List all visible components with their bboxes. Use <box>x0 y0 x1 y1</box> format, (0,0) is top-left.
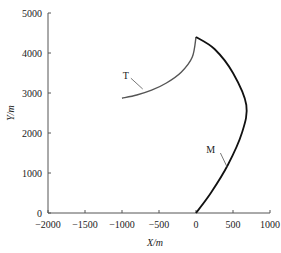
y-tick-label: 3000 <box>22 88 42 99</box>
x-tick-label: 500 <box>226 219 241 230</box>
y-tick-label: 0 <box>37 208 42 219</box>
x-tick-label: −1500 <box>72 219 98 230</box>
x-tick-label: 0 <box>194 219 199 230</box>
y-ticks: 010002000300040005000 <box>22 8 51 219</box>
y-tick-label: 4000 <box>22 48 42 59</box>
series-M <box>196 37 247 213</box>
x-axis-label: X/m <box>146 237 163 248</box>
annotation-M: M <box>206 144 215 155</box>
annotations: TM <box>123 70 227 167</box>
x-tick-label: −1000 <box>109 219 135 230</box>
x-tick-label: 1000 <box>260 219 280 230</box>
y-axis-label: Y/m <box>5 105 16 121</box>
x-tick-label: −500 <box>149 219 170 230</box>
series-lines <box>122 37 247 213</box>
y-tick-label: 5000 <box>22 8 42 19</box>
series-T <box>122 37 196 98</box>
trajectory-chart: 010002000300040005000 −2000−1500−1000−50… <box>0 0 281 253</box>
x-tick-label: −2000 <box>35 219 61 230</box>
annotation-T: T <box>123 70 129 81</box>
y-tick-label: 2000 <box>22 128 42 139</box>
y-tick-label: 1000 <box>22 168 42 179</box>
